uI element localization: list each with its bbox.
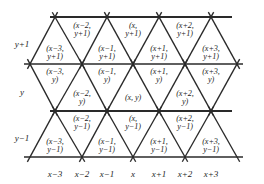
coordinate-label-line2: y−1) — [85, 146, 129, 154]
coordinate-label-line2: y−1) — [33, 146, 77, 154]
coordinate-label-line2: y+1) — [137, 53, 181, 61]
coordinate-label-line2: y) — [60, 98, 104, 106]
coordinate-label-line2: y+1) — [60, 30, 104, 38]
coordinate-label-line2: y) — [33, 76, 77, 84]
coordinate-label: (x−2,y−1) — [60, 115, 104, 132]
figure-canvas: (x−2,y+1)(x,y+1)(x+2,y+1)(x−3,y+1)(x−1,y… — [0, 0, 264, 184]
coordinate-label: (x+1,y) — [137, 68, 181, 85]
coordinate-label: (x+2,y−1) — [163, 115, 207, 132]
coordinate-label-line2: y−1) — [137, 146, 181, 154]
y-axis-label: y+1 — [4, 40, 40, 49]
coordinate-label-line2: y+1) — [85, 53, 129, 61]
coordinate-label: (x+2,y) — [163, 90, 207, 107]
coordinate-label-line2: y−1) — [111, 123, 155, 131]
x-axis-label: x+3 — [193, 170, 229, 179]
coordinate-label-line2: y) — [137, 76, 181, 84]
coordinate-label: (x+1,y+1) — [137, 45, 181, 62]
coordinate-label: (x−2,y+1) — [60, 22, 104, 39]
coordinate-label: (x+3,y−1) — [189, 138, 233, 155]
coordinate-label-line2: y−1) — [163, 123, 207, 131]
coordinate-label-line2: y) — [85, 76, 129, 84]
coordinate-label-line2: y−1) — [189, 146, 233, 154]
coordinate-label: (x, y) — [111, 94, 155, 102]
y-axis-label: y−1 — [4, 134, 40, 143]
coordinate-label: (x−1,y+1) — [85, 45, 129, 62]
coordinate-label-line2: y) — [163, 98, 207, 106]
coordinate-label: (x,y+1) — [111, 22, 155, 39]
coordinate-label-line1: (x, y) — [111, 94, 155, 102]
coordinate-label-line2: y+1) — [163, 30, 207, 38]
coordinate-label: (x+2,y+1) — [163, 22, 207, 39]
coordinate-label: (x−2,y) — [60, 90, 104, 107]
coordinate-label: (x−1,y) — [85, 68, 129, 85]
coordinate-label-line2: y+1) — [189, 53, 233, 61]
coordinate-label: (x+3,y+1) — [189, 45, 233, 62]
coordinate-label-line2: y+1) — [33, 53, 77, 61]
coordinate-label: (x+1,y−1) — [137, 138, 181, 155]
coordinate-label: (x+3,y) — [189, 68, 233, 85]
coordinate-label: (x−1,y−1) — [85, 138, 129, 155]
coordinate-label: (x,y−1) — [111, 115, 155, 132]
y-axis-label: y — [4, 88, 40, 97]
coordinate-label-line2: y−1) — [60, 123, 104, 131]
coordinate-label-line2: y) — [189, 76, 233, 84]
coordinate-label: (x−3,y) — [33, 68, 77, 85]
coordinate-label-line2: y+1) — [111, 30, 155, 38]
